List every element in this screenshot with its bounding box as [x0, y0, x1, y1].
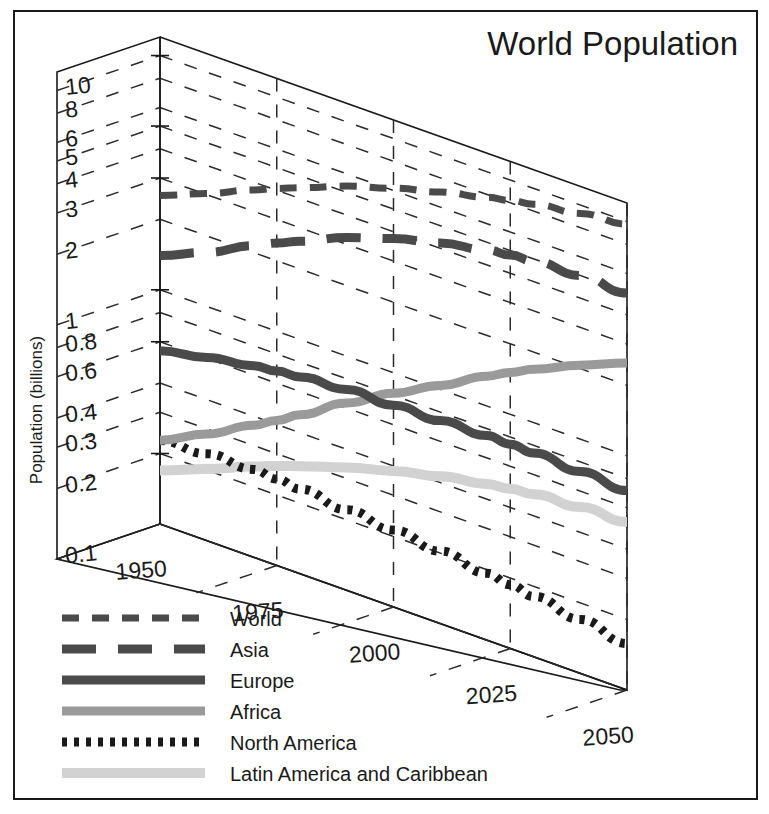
x-tick-label: 2050 — [582, 721, 635, 751]
legend-label: Latin America and Caribbean — [230, 763, 488, 785]
legend-label: Europe — [230, 670, 295, 692]
x-tick-label: 2000 — [348, 638, 401, 668]
y-tick-label: 0.1 — [64, 539, 99, 568]
chart-legend: WorldAsiaEuropeAfricaNorth AmericaLatin … — [62, 608, 488, 785]
y-tick-label: 0.6 — [64, 357, 99, 386]
legend-label: North America — [230, 732, 358, 754]
legend-label: Africa — [230, 701, 282, 723]
y-tick-label: 8 — [64, 96, 79, 123]
y-tick-label: 0.4 — [64, 398, 99, 427]
chart-title: World Population — [487, 25, 738, 62]
x-tick-label: 1950 — [115, 555, 168, 585]
chart-stage: 1086543210.80.60.40.30.20.1 195019752000… — [0, 0, 769, 814]
y-tick-label: 0.8 — [64, 328, 99, 357]
legend-label: Asia — [230, 639, 270, 661]
x-tick-label: 2025 — [465, 680, 518, 710]
y-axis-tick-labels: 1086543210.80.60.40.30.20.1 — [64, 72, 99, 569]
legend-label: World — [230, 608, 282, 630]
y-axis-title: Population (billions) — [27, 336, 46, 484]
y-tick-label: 4 — [64, 166, 80, 193]
y-tick-label: 2 — [64, 237, 79, 264]
plot-box-walls — [57, 37, 627, 690]
chart-canvas: 1086543210.80.60.40.30.20.1 195019752000… — [0, 0, 769, 814]
y-tick-label: 0.3 — [64, 428, 99, 457]
y-tick-label: 0.2 — [64, 469, 99, 498]
y-tick-label: 3 — [64, 195, 79, 222]
